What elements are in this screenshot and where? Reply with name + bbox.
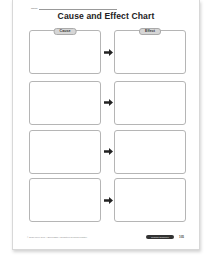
cause-box-3[interactable]	[29, 130, 101, 174]
effect-box-1[interactable]: Effect	[114, 30, 186, 74]
worksheet-page: Name Cause and Effect Chart Cause Effect…	[12, 0, 200, 250]
name-label: Name	[31, 7, 38, 10]
right-arrow-icon	[104, 49, 113, 56]
graphic-organizer-badge: Graphic Organizer	[146, 235, 174, 239]
cause-header-tab: Cause	[54, 28, 77, 35]
cause-box-1[interactable]: Cause	[29, 30, 101, 74]
effect-box-4[interactable]	[114, 178, 186, 222]
effect-box-3[interactable]	[114, 130, 186, 174]
right-arrow-icon	[104, 148, 113, 155]
cause-box-2[interactable]	[29, 81, 101, 125]
name-line[interactable]	[39, 9, 117, 10]
page-number: 105	[179, 235, 184, 239]
cause-box-4[interactable]	[29, 178, 101, 222]
effect-header-tab: Effect	[139, 28, 161, 35]
page-title: Cause and Effect Chart	[13, 11, 199, 21]
copyright-text: © Evan-Moor Corp. • EMC 3257 • Nonfictio…	[27, 236, 87, 238]
right-arrow-icon	[104, 99, 113, 106]
right-arrow-icon	[104, 197, 113, 204]
effect-box-2[interactable]	[114, 81, 186, 125]
